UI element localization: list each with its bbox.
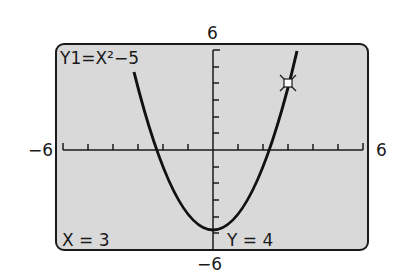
ymin-label: −6 [197,256,222,273]
equation-label: Y1=X²−5 [60,50,139,67]
trace-x-value: X = 3 [62,232,110,249]
xmin-label: −6 [28,142,53,159]
graph-canvas [0,0,404,279]
parabola-curve [134,51,297,230]
trace-y-value: Y = 4 [227,232,273,249]
ymax-label: 6 [207,25,218,42]
xmax-label: 6 [376,142,387,159]
